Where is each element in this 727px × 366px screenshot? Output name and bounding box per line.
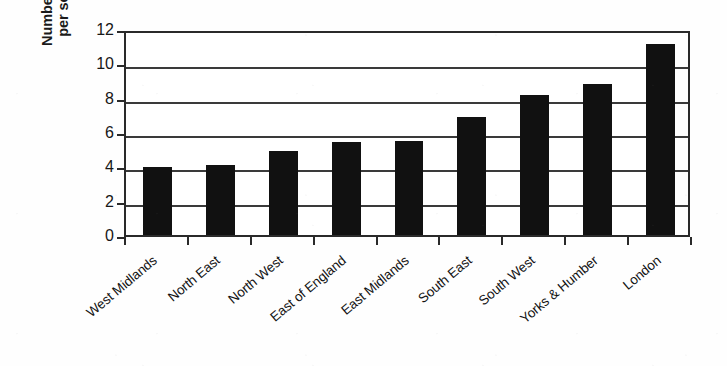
x-axis-tick-mark — [187, 237, 189, 245]
bar — [332, 142, 361, 235]
x-axis-tick-mark — [438, 237, 440, 245]
bar — [206, 165, 235, 235]
gridline — [126, 67, 688, 69]
y-axis-tick-label: 6 — [52, 124, 114, 142]
bar — [520, 95, 549, 235]
x-axis-tick-mark — [124, 237, 126, 245]
y-axis-tick-label: 2 — [52, 193, 114, 211]
x-axis-label: West Midlands — [0, 253, 160, 366]
y-axis-tick-label: 12 — [52, 21, 114, 39]
bar — [269, 151, 298, 235]
bar-chart-figure: Number on register per social letting 02… — [0, 0, 727, 366]
plot-area — [124, 31, 690, 237]
y-axis-tick-label: 10 — [52, 55, 114, 73]
x-axis-tick-mark — [250, 237, 252, 245]
x-axis-tick-mark — [376, 237, 378, 245]
bar — [583, 84, 612, 235]
y-axis-tick-label: 8 — [52, 90, 114, 108]
bar — [646, 44, 675, 235]
x-axis-tick-mark — [313, 237, 315, 245]
bar — [457, 117, 486, 235]
x-axis-tick-mark — [501, 237, 503, 245]
y-axis-tick-label: 0 — [52, 227, 114, 245]
x-axis-tick-mark — [690, 237, 692, 245]
bar — [395, 141, 424, 235]
x-axis-tick-mark — [564, 237, 566, 245]
x-axis-tick-mark — [627, 237, 629, 245]
y-axis-tick-label: 4 — [52, 158, 114, 176]
bar — [143, 167, 172, 235]
